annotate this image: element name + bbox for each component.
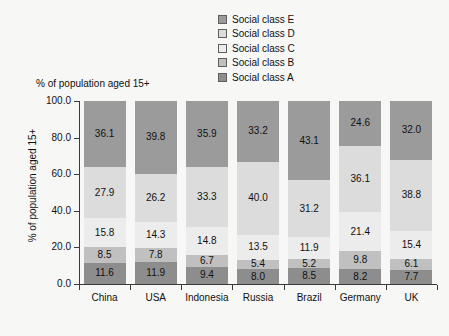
bar-segment[interactable]: 43.1 [288,101,330,180]
x-axis-category-label: USA [130,292,181,303]
bar-segment[interactable]: 6.1 [390,259,432,270]
bar-segment-value-label: 11.9 [146,268,165,278]
bar-segment[interactable]: 9.4 [186,267,228,284]
bar-segment-value-label: 8.0 [251,272,265,282]
x-axis-tick-mark [232,285,233,290]
plot-area: 36.127.915.88.511.639.826.214.37.811.935… [79,101,437,284]
bar-segment-value-label: 36.1 [351,174,370,184]
legend-swatch-icon [218,58,227,67]
bar-segment-value-label: 7.8 [149,250,163,260]
bar-segment[interactable]: 24.6 [339,101,381,146]
x-axis-category-label: Indonesia [181,292,232,303]
bar-segment-value-label: 36.1 [95,129,114,139]
bar-segment[interactable]: 21.4 [339,212,381,251]
legend-item[interactable]: Social class B [218,56,358,71]
legend-item-label: Social class A [232,72,294,83]
bar-segment[interactable]: 11.9 [135,262,177,284]
bar-segment-value-label: 33.3 [197,192,216,202]
bar-segment-value-label: 32.0 [402,125,421,135]
bar-segment[interactable]: 35.9 [186,101,228,167]
bar-segment[interactable]: 9.8 [339,251,381,269]
x-axis-category-label: Russia [232,292,283,303]
y-axis-tick-label: 0.0 [31,279,71,289]
bar-segment-value-label: 5.2 [302,259,316,269]
bar-segment[interactable]: 5.2 [288,259,330,269]
bar-segment[interactable]: 8.5 [288,268,330,284]
bar-segment[interactable]: 14.8 [186,227,228,254]
bar-segment-value-label: 21.4 [351,227,370,237]
bar-segment[interactable]: 32.0 [390,101,432,160]
bar-segment-value-label: 8.2 [353,272,367,282]
legend-swatch-icon [218,73,227,82]
bar-segment[interactable]: 27.9 [84,167,126,218]
bar-segment[interactable]: 38.8 [390,160,432,231]
bar-segment[interactable]: 15.4 [390,231,432,259]
bar-group[interactable]: 24.636.121.49.88.2 [339,101,381,284]
bar-segment[interactable]: 6.7 [186,255,228,267]
bar-segment[interactable]: 8.0 [237,269,279,284]
plot-title: % of population aged 15+ [36,78,150,89]
bar-segment-value-label: 35.9 [197,129,216,139]
bar-segment-value-label: 13.5 [248,242,267,252]
bar-group[interactable]: 39.826.214.37.811.9 [135,101,177,284]
bar-segment[interactable]: 31.2 [288,180,330,237]
bar-segment[interactable]: 13.5 [237,235,279,260]
bar-segment[interactable]: 8.2 [339,269,381,284]
bar-segment-value-label: 9.8 [353,255,367,265]
legend-item[interactable]: Social class C [218,41,358,56]
bar-segment[interactable]: 33.2 [237,101,279,162]
bar-segment[interactable]: 8.5 [84,247,126,263]
bar-segment-value-label: 14.8 [197,236,216,246]
bar-segment[interactable]: 7.7 [390,270,432,284]
bar-segment-value-label: 8.5 [98,250,112,260]
y-axis-tick-label: 40.0 [31,206,71,216]
bar-segment[interactable]: 40.0 [237,162,279,235]
bar-segment[interactable]: 36.1 [339,146,381,212]
bar-segment-value-label: 39.8 [146,132,165,142]
legend-item[interactable]: Social class E [218,12,358,27]
bar-segment-value-label: 31.2 [299,204,318,214]
y-axis-tick-label: 80.0 [31,133,71,143]
bar-segment-value-label: 27.9 [95,188,114,198]
bar-segment-value-label: 9.4 [200,270,214,280]
bar-segment[interactable]: 39.8 [135,101,177,174]
bar-segment-value-label: 11.6 [95,268,114,278]
legend-item-label: Social class B [232,57,294,68]
chart-legend: Social class ESocial class DSocial class… [218,12,358,85]
bar-segment-value-label: 33.2 [248,126,267,136]
bar-segment-value-label: 26.2 [146,193,165,203]
x-axis-line [79,284,437,285]
bar-group[interactable]: 32.038.815.46.17.7 [390,101,432,284]
bar-segment[interactable]: 11.9 [288,237,330,259]
legend-swatch-icon [218,44,227,53]
x-axis-tick-mark [181,285,182,290]
bar-group[interactable]: 36.127.915.88.511.6 [84,101,126,284]
bar-segment-value-label: 6.7 [200,256,214,266]
x-axis-tick-mark [284,285,285,290]
legend-swatch-icon [218,15,227,24]
bar-segment[interactable]: 15.8 [84,218,126,247]
y-axis-tick-label: 60.0 [31,169,71,179]
bar-group[interactable]: 35.933.314.86.79.4 [186,101,228,284]
bar-group[interactable]: 43.131.211.95.28.5 [288,101,330,284]
bar-segment[interactable]: 14.3 [135,222,177,248]
legend-item[interactable]: Social class A [218,70,358,85]
bar-segment-value-label: 15.4 [402,240,421,250]
bar-segment-value-label: 43.1 [299,136,318,146]
bar-segment-value-label: 6.1 [404,259,418,269]
bar-group[interactable]: 33.240.013.55.48.0 [237,101,279,284]
legend-item-label: Social class D [232,28,295,39]
bar-segment[interactable]: 33.3 [186,167,228,228]
bar-segment[interactable]: 11.6 [84,263,126,284]
bar-segment[interactable]: 26.2 [135,174,177,222]
bar-segment-value-label: 40.0 [248,193,267,203]
x-axis-tick-mark [335,285,336,290]
legend-item[interactable]: Social class D [218,27,358,42]
bar-segment-value-label: 38.8 [402,190,421,200]
bar-segment[interactable]: 5.4 [237,260,279,270]
bar-segment[interactable]: 7.8 [135,248,177,262]
bar-segment-value-label: 15.8 [95,228,114,238]
bar-segment[interactable]: 36.1 [84,101,126,167]
bar-segment-value-label: 8.5 [302,271,316,281]
y-axis-tick-label: 20.0 [31,242,71,252]
